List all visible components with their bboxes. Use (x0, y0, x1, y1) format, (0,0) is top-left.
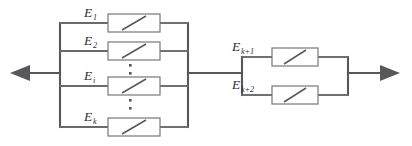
branch-ek2 (242, 86, 348, 104)
arrow-right-icon (380, 65, 400, 81)
right-block (242, 48, 348, 104)
label-ek1-subscript: k+1 (241, 47, 254, 56)
ellipsis-lower-dot-2 (129, 107, 132, 110)
ellipsis-upper-dot-1 (129, 64, 132, 67)
label-ek2-subscript: k+2 (241, 85, 254, 94)
label-e2: E2 (84, 34, 97, 48)
branch-e2 (60, 42, 188, 60)
label-ek-symbol: E (84, 109, 92, 124)
label-ei-symbol: E (84, 68, 92, 83)
label-e1-subscript: 1 (93, 13, 97, 22)
ellipsis-upper (129, 64, 132, 75)
label-ek-subscript: k (93, 117, 97, 126)
label-ek: Ek (84, 110, 96, 124)
label-e2-subscript: 2 (93, 41, 97, 50)
branch-ei (60, 77, 188, 95)
ellipsis-upper-dot-2 (129, 72, 132, 75)
label-e2-symbol: E (84, 33, 92, 48)
label-ek1: Ek+1 (232, 40, 254, 54)
label-ei: Ei (84, 69, 95, 83)
label-e1: E1 (84, 6, 97, 20)
label-e1-symbol: E (84, 5, 92, 20)
left-block (60, 14, 188, 136)
label-ek1-symbol: E (232, 39, 240, 54)
label-ei-subscript: i (93, 76, 95, 85)
right-terminal (348, 65, 400, 81)
diagram-svg (0, 0, 412, 146)
label-ek2: Ek+2 (232, 78, 254, 92)
ellipsis-lower (129, 99, 132, 110)
branch-ek1 (242, 48, 348, 66)
label-ek2-symbol: E (232, 77, 240, 92)
arrow-left-icon (10, 65, 30, 81)
left-terminal (10, 65, 60, 81)
ellipsis-lower-dot-1 (129, 99, 132, 102)
figure-canvas: E1 E2 Ei Ek Ek+1 Ek+2 (0, 0, 412, 146)
branch-e1 (60, 14, 188, 32)
branch-ek (60, 118, 188, 136)
